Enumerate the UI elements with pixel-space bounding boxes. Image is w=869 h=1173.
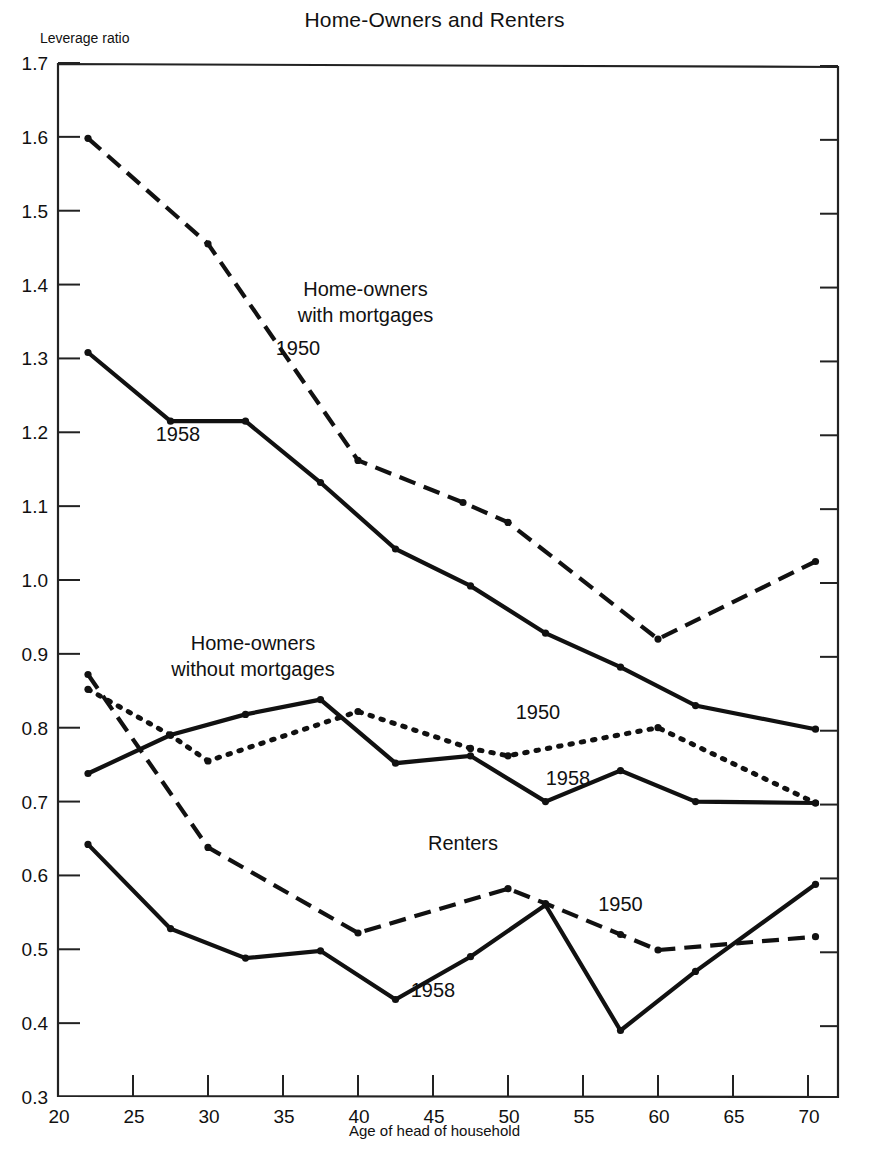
y-axis-tick-label: 1.5 bbox=[22, 201, 48, 222]
y-axis-tick-label: 1.1 bbox=[22, 496, 48, 517]
plot-frame bbox=[58, 64, 838, 1097]
data-point bbox=[812, 799, 819, 806]
series-year-label: 1958 bbox=[411, 979, 456, 1001]
data-point bbox=[84, 671, 91, 678]
y-axis-tick-label: 1.0 bbox=[22, 570, 48, 591]
data-point bbox=[542, 798, 549, 805]
data-point bbox=[504, 885, 511, 892]
data-point bbox=[392, 545, 399, 552]
x-axis-label: Age of head of household bbox=[0, 1122, 869, 1139]
group-annotation: Home-owners bbox=[191, 632, 315, 654]
data-point bbox=[392, 996, 399, 1003]
series-line bbox=[88, 844, 816, 1030]
y-axis-tick-label: 0.4 bbox=[22, 1013, 49, 1034]
data-point bbox=[692, 798, 699, 805]
data-point bbox=[392, 760, 399, 767]
data-point bbox=[654, 946, 661, 953]
y-axis-tick-label: 0.6 bbox=[22, 865, 48, 886]
data-point bbox=[354, 929, 361, 936]
group-annotation: Home-owners bbox=[303, 278, 427, 300]
chart-plot-area: 0.30.40.50.60.70.80.91.01.11.21.31.41.51… bbox=[0, 0, 869, 1173]
series-year-label: 1950 bbox=[516, 701, 561, 723]
data-point bbox=[692, 968, 699, 975]
y-axis-tick-label: 0.9 bbox=[22, 644, 48, 665]
data-point bbox=[812, 881, 819, 888]
data-point bbox=[204, 844, 211, 851]
series-line bbox=[88, 675, 816, 951]
series-year-label: 1950 bbox=[276, 337, 321, 359]
y-axis-tick-label: 1.2 bbox=[22, 422, 48, 443]
y-axis-tick-label: 0.8 bbox=[22, 718, 48, 739]
data-point bbox=[617, 767, 624, 774]
group-annotation: Renters bbox=[428, 832, 498, 854]
y-axis-tick-label: 1.3 bbox=[22, 348, 48, 369]
figure-caption bbox=[24, 1154, 344, 1173]
group-annotation-line2: without mortgages bbox=[170, 658, 334, 680]
data-point bbox=[459, 499, 466, 506]
data-point bbox=[654, 724, 661, 731]
data-point bbox=[467, 745, 474, 752]
data-point bbox=[84, 135, 91, 142]
data-point bbox=[467, 953, 474, 960]
data-point bbox=[242, 955, 249, 962]
data-point bbox=[504, 519, 511, 526]
data-point bbox=[317, 947, 324, 954]
y-axis-tick-label: 1.4 bbox=[22, 275, 49, 296]
data-point bbox=[504, 752, 511, 759]
data-point bbox=[617, 931, 624, 938]
data-point bbox=[692, 702, 699, 709]
data-point bbox=[204, 240, 211, 247]
series-year-label: 1950 bbox=[598, 893, 643, 915]
chart-figure: Home-Owners and Renters Leverage ratio 0… bbox=[0, 0, 869, 1173]
data-point bbox=[617, 1027, 624, 1034]
data-point bbox=[84, 841, 91, 848]
data-point bbox=[542, 901, 549, 908]
data-point bbox=[467, 582, 474, 589]
data-point bbox=[204, 757, 211, 764]
series-year-label: 1958 bbox=[156, 423, 201, 445]
data-point bbox=[654, 636, 661, 643]
data-point bbox=[84, 770, 91, 777]
data-point bbox=[542, 630, 549, 637]
data-point bbox=[617, 664, 624, 671]
data-point bbox=[242, 418, 249, 425]
data-point bbox=[812, 933, 819, 940]
data-point bbox=[84, 349, 91, 356]
data-point bbox=[167, 732, 174, 739]
y-axis-tick-label: 1.6 bbox=[22, 127, 48, 148]
data-point bbox=[354, 457, 361, 464]
data-point bbox=[812, 558, 819, 565]
data-point bbox=[84, 686, 91, 693]
data-point bbox=[317, 696, 324, 703]
y-axis-tick-label: 0.3 bbox=[22, 1087, 48, 1108]
y-axis-tick-label: 0.7 bbox=[22, 792, 48, 813]
series-line bbox=[88, 138, 816, 639]
data-point bbox=[812, 726, 819, 733]
data-point bbox=[467, 752, 474, 759]
data-point bbox=[354, 708, 361, 715]
y-axis-tick-label: 0.5 bbox=[22, 939, 48, 960]
data-point bbox=[167, 925, 174, 932]
y-axis-tick-label: 1.7 bbox=[22, 53, 48, 74]
group-annotation-line2: with mortgages bbox=[297, 304, 434, 326]
series-year-label: 1958 bbox=[546, 767, 591, 789]
data-point bbox=[317, 479, 324, 486]
data-point bbox=[242, 711, 249, 718]
